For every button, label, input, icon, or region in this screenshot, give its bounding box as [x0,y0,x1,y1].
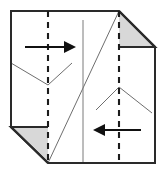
origami-figure-svg [0,0,165,172]
origami-diagram [0,0,165,172]
